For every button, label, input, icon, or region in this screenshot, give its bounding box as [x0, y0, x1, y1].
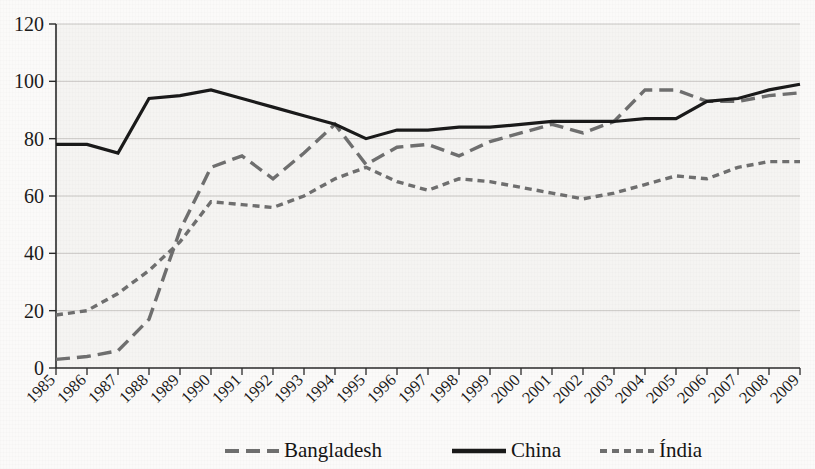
- legend-label-bangladesh: Bangladesh: [284, 438, 382, 462]
- y-tick-label: 120: [14, 13, 44, 35]
- x-tick-label: 1998: [425, 370, 462, 407]
- x-tick-label: 1992: [239, 370, 276, 407]
- x-tick-label: 1985: [22, 370, 59, 407]
- y-tick-label: 80: [24, 128, 44, 150]
- x-tick-label: 1994: [301, 370, 338, 407]
- x-tick-label: 1988: [115, 370, 152, 407]
- y-tick-label: 60: [24, 185, 44, 207]
- x-tick-label: 1990: [177, 370, 214, 407]
- legend-label-china: China: [511, 438, 562, 462]
- x-tick-label: 2007: [704, 370, 741, 407]
- x-tick-label: 1986: [53, 370, 90, 407]
- x-tick-label: 2001: [518, 370, 555, 407]
- chart-figure: 0204060801001201985198619871988198919901…: [0, 0, 815, 469]
- x-tick-label: 2008: [735, 370, 772, 407]
- x-tick-label: 2004: [611, 370, 648, 407]
- legend-label-índia: Índia: [659, 438, 703, 462]
- x-tick-label: 1997: [394, 370, 431, 407]
- x-tick-label: 1999: [456, 370, 493, 407]
- x-tick-label: 2009: [766, 370, 803, 407]
- x-tick-label: 1989: [146, 370, 183, 407]
- x-tick-label: 1996: [363, 370, 400, 407]
- line-chart: 0204060801001201985198619871988198919901…: [0, 0, 815, 469]
- x-axis-ticks: 1985198619871988198919901991199219931994…: [22, 368, 803, 407]
- x-tick-label: 2003: [580, 370, 617, 407]
- x-tick-label: 2006: [673, 370, 710, 407]
- y-tick-label: 20: [24, 300, 44, 322]
- legend: BangladeshChinaÍndia: [225, 438, 703, 462]
- x-tick-label: 2002: [549, 370, 586, 407]
- x-tick-label: 2005: [642, 370, 679, 407]
- x-tick-label: 1995: [332, 370, 369, 407]
- x-tick-label: 1993: [270, 370, 307, 407]
- y-axis-ticks: 020406080100120: [14, 13, 56, 379]
- x-tick-label: 1987: [84, 370, 121, 407]
- x-tick-label: 2000: [487, 370, 524, 407]
- x-tick-label: 1991: [208, 370, 245, 407]
- y-tick-label: 40: [24, 242, 44, 264]
- y-tick-label: 100: [14, 70, 44, 92]
